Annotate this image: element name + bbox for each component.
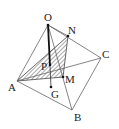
edge-bc [72,58,101,110]
label-g: G [51,88,59,100]
point-p [49,64,52,67]
label-o: O [44,11,52,23]
label-a: A [8,81,16,93]
label-p: P [41,60,47,72]
edge-ab [17,81,72,110]
label-m: M [65,73,75,85]
label-n: N [68,24,76,36]
point-m [62,76,65,79]
point-o [47,24,50,27]
pyramid-diagram: O N C A P M G B [0,0,119,129]
label-c: C [102,48,109,60]
label-b: B [74,111,81,123]
